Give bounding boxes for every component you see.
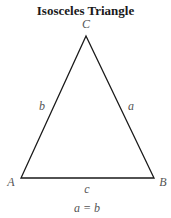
vertex-label-b: B xyxy=(159,175,167,189)
equality-caption: a = b xyxy=(74,201,100,215)
side-label-c: c xyxy=(84,182,90,196)
vertex-label-a: A xyxy=(6,175,15,189)
vertex-label-c: C xyxy=(82,17,91,31)
side-label-a: a xyxy=(128,99,134,113)
triangle-diagram: C A B b a c a = b xyxy=(0,0,171,218)
side-label-b: b xyxy=(39,99,45,113)
